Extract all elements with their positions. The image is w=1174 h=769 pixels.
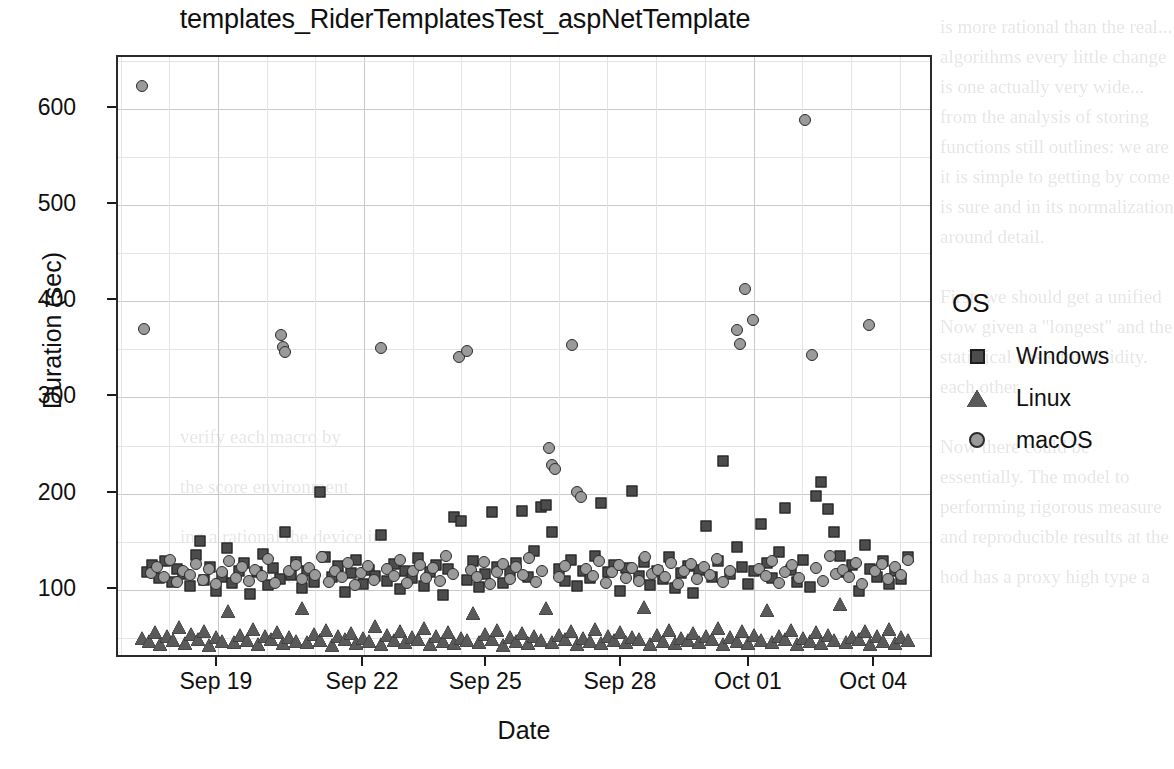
data-point-macos (843, 571, 855, 583)
legend-marker-triangle-icon (950, 377, 1004, 419)
y-axis-tick-label: 100 (38, 574, 76, 601)
legend-entry-linux[interactable]: Linux (950, 377, 1150, 419)
x-axis-tick-mark (215, 657, 217, 666)
data-point-macos (197, 574, 209, 586)
data-point-macos (138, 323, 150, 335)
data-point-windows (627, 485, 638, 496)
data-point-macos (504, 573, 516, 585)
data-point-macos (786, 559, 798, 571)
data-point-macos (704, 569, 716, 581)
data-point-macos (536, 565, 548, 577)
y-axis-tick-mark (107, 394, 116, 396)
x-axis-title: Date (116, 716, 932, 745)
y-axis-tick-label: 400 (38, 286, 76, 313)
data-point-windows (688, 587, 699, 598)
data-point-windows (731, 542, 742, 553)
data-point-windows (315, 486, 326, 497)
data-point-macos (484, 578, 496, 590)
gridline-horizontal (118, 446, 930, 447)
data-point-macos (461, 345, 473, 357)
data-point-macos (158, 571, 170, 583)
data-point-windows (280, 527, 291, 538)
gridline-vertical (315, 57, 316, 655)
data-point-macos (530, 576, 542, 588)
data-point-macos (388, 570, 400, 582)
gridline-horizontal (118, 205, 930, 206)
data-point-macos (394, 554, 406, 566)
gridline-horizontal (118, 494, 930, 495)
data-point-macos (626, 562, 638, 574)
data-point-windows (798, 554, 809, 565)
data-point-macos (895, 569, 907, 581)
legend-entry-list: WindowsLinuxmacOS (950, 335, 1150, 461)
data-point-macos (691, 573, 703, 585)
data-point-macos (685, 558, 697, 570)
data-point-windows (816, 477, 827, 488)
square-icon (970, 349, 985, 364)
data-point-macos (760, 570, 772, 582)
x-axis-tick-label: Oct 04 (839, 668, 907, 695)
data-point-macos (478, 556, 490, 568)
data-point-linux (760, 603, 774, 616)
gridline-horizontal (118, 61, 930, 62)
data-point-windows (835, 551, 846, 562)
x-axis-tick-label: Sep 25 (449, 668, 522, 695)
gridline-horizontal (118, 542, 930, 543)
data-point-macos (739, 283, 751, 295)
legend-entry-windows[interactable]: Windows (950, 335, 1150, 377)
legend: OS WindowsLinuxmacOS (950, 288, 1150, 461)
data-point-macos (275, 329, 287, 341)
legend-label: Windows (1004, 343, 1109, 370)
data-point-windows (700, 521, 711, 532)
data-point-macos (164, 554, 176, 566)
data-point-windows (596, 498, 607, 509)
data-point-macos (793, 572, 805, 584)
data-point-windows (375, 529, 386, 540)
y-axis-title: Duration (sec) (38, 51, 67, 611)
data-point-macos (620, 572, 632, 584)
data-point-macos (414, 559, 426, 571)
data-point-windows (547, 527, 558, 538)
data-point-windows (718, 455, 729, 466)
data-point-windows (455, 516, 466, 527)
legend-label: Linux (1004, 385, 1071, 412)
x-axis-tick-label: Oct 01 (714, 668, 782, 695)
legend-entry-macos[interactable]: macOS (950, 419, 1150, 461)
data-point-macos (766, 555, 778, 567)
data-point-macos (420, 572, 432, 584)
data-point-windows (829, 527, 840, 538)
data-point-macos (566, 339, 578, 351)
data-point-macos (243, 575, 255, 587)
data-point-macos (806, 349, 818, 361)
data-point-macos (203, 563, 215, 575)
data-point-macos (323, 576, 335, 588)
y-axis-tick-mark (107, 202, 116, 204)
data-point-windows (780, 503, 791, 514)
data-point-macos (236, 561, 248, 573)
data-point-macos (773, 577, 785, 589)
data-point-linux (901, 633, 915, 646)
data-point-macos (876, 558, 888, 570)
y-axis-tick-mark (107, 491, 116, 493)
y-axis-tick-label: 200 (38, 478, 76, 505)
data-point-macos (593, 555, 605, 567)
x-axis-tick-label: Sep 28 (583, 668, 656, 695)
x-axis-tick-mark (361, 657, 363, 666)
y-axis-tick-label: 500 (38, 190, 76, 217)
data-point-macos (639, 551, 651, 563)
data-point-macos (375, 342, 387, 354)
data-point-macos (543, 442, 555, 454)
data-point-linux (637, 601, 651, 614)
data-point-macos (216, 566, 228, 578)
data-point-macos (824, 550, 836, 562)
data-point-macos (517, 569, 529, 581)
data-point-macos (427, 562, 439, 574)
data-point-macos (184, 569, 196, 581)
data-point-macos (210, 578, 222, 590)
data-point-macos (342, 557, 354, 569)
data-point-windows (194, 535, 205, 546)
gridline-horizontal (118, 397, 930, 398)
data-point-windows (810, 490, 821, 501)
data-point-macos (665, 557, 677, 569)
